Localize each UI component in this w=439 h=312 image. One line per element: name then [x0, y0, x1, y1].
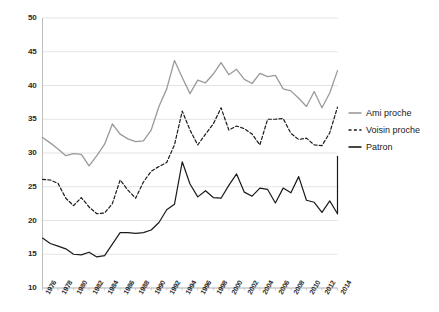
- legend-swatch-solid-line-icon: [348, 108, 362, 118]
- gridlines-group: [43, 18, 338, 288]
- y-tick-label-15: 15: [15, 249, 37, 258]
- series-line-voisin-proche: [43, 107, 338, 214]
- y-tick-label-45: 45: [15, 47, 37, 56]
- y-tick-label-40: 40: [15, 81, 37, 90]
- chart-legend: Ami procheVoisin prochePatron: [348, 104, 438, 155]
- legend-swatch-solid-line-icon: [348, 142, 362, 152]
- y-tick-label-30: 30: [15, 148, 37, 157]
- data-series-group: [43, 61, 338, 257]
- y-tick-label-35: 35: [15, 114, 37, 123]
- y-tick-label-50: 50: [15, 13, 37, 22]
- chart-plot-area: [0, 0, 439, 312]
- y-tick-label-10: 10: [15, 283, 37, 292]
- legend-item-patron[interactable]: Patron: [348, 138, 438, 155]
- chart-container: 101520253035404550 197619781980198219841…: [0, 0, 439, 312]
- legend-label: Patron: [366, 142, 393, 152]
- legend-item-ami-proche[interactable]: Ami proche: [348, 104, 438, 121]
- legend-swatch-dashed-line-icon: [348, 125, 362, 135]
- y-tick-label-20: 20: [15, 216, 37, 225]
- series-line-patron: [43, 162, 338, 257]
- legend-item-voisin-proche[interactable]: Voisin proche: [348, 121, 438, 138]
- legend-label: Voisin proche: [366, 125, 420, 135]
- y-tick-label-25: 25: [15, 182, 37, 191]
- series-line-ami-proche: [43, 61, 338, 166]
- legend-label: Ami proche: [366, 108, 412, 118]
